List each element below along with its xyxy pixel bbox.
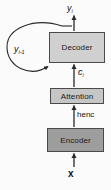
label-input-x-text: x bbox=[68, 168, 74, 179]
label-henc-text: henc bbox=[77, 110, 94, 119]
label-feedback-y-subscript: i-1 bbox=[19, 49, 25, 55]
label-output-y: yi bbox=[67, 4, 73, 13]
node-decoder-label: Decoder bbox=[62, 43, 93, 52]
label-context-base: c bbox=[78, 67, 83, 77]
node-attention[interactable]: Attention bbox=[50, 88, 104, 104]
label-feedback-y-base: y bbox=[14, 44, 19, 54]
label-feedback-y-prev: yi-1 bbox=[14, 45, 25, 54]
label-input-x: x bbox=[68, 169, 74, 179]
label-output-y-base: y bbox=[67, 3, 72, 13]
label-context-vector: ci bbox=[78, 68, 84, 77]
node-encoder[interactable]: Encoder bbox=[47, 128, 104, 152]
node-decoder[interactable]: Decoder bbox=[49, 32, 105, 63]
label-output-y-subscript: i bbox=[72, 8, 73, 14]
architecture-diagram: Decoder Attention Encoder yi yi-1 ci hen… bbox=[0, 0, 111, 190]
node-attention-label: Attention bbox=[61, 92, 93, 101]
label-encoder-hidden-state: henc bbox=[77, 111, 94, 119]
node-encoder-label: Encoder bbox=[60, 136, 91, 145]
label-context-subscript: i bbox=[83, 72, 84, 78]
